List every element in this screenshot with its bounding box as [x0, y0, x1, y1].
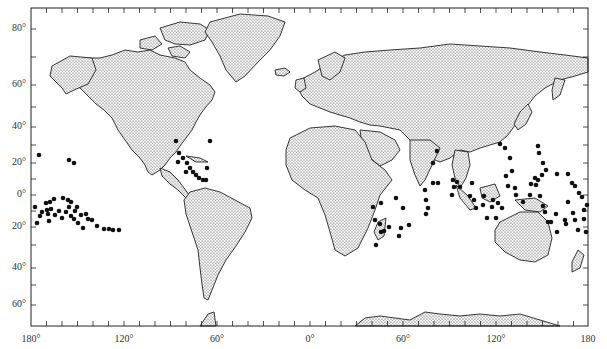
data-point	[474, 206, 479, 211]
data-point	[188, 166, 193, 171]
cuba	[186, 156, 208, 162]
data-point	[566, 200, 571, 205]
data-point	[481, 203, 486, 208]
lon-label: 60°	[210, 333, 224, 344]
data-point	[84, 212, 89, 217]
data-point	[496, 201, 501, 206]
data-point	[401, 206, 406, 211]
lon-label: 120°	[487, 333, 506, 344]
landmasses	[50, 14, 588, 326]
data-point	[79, 213, 84, 218]
data-point	[529, 182, 534, 187]
data-point	[204, 178, 209, 183]
data-point	[468, 194, 473, 199]
data-point	[563, 218, 568, 223]
kamchatka	[552, 78, 565, 100]
data-point	[67, 158, 72, 163]
data-point	[378, 222, 383, 227]
data-point	[73, 209, 78, 214]
data-point	[72, 161, 77, 166]
data-point	[485, 216, 490, 221]
data-point	[537, 151, 542, 156]
data-point	[95, 224, 100, 229]
data-point	[576, 228, 581, 233]
lat-label: 20°	[0, 156, 26, 167]
lon-label: 120°	[115, 333, 134, 344]
data-point	[40, 210, 45, 215]
data-point	[47, 219, 52, 224]
data-point	[490, 205, 495, 210]
data-point	[540, 173, 545, 178]
lat-label: 80°	[0, 22, 26, 33]
india	[410, 140, 440, 186]
data-point	[185, 161, 190, 166]
data-point	[72, 217, 77, 222]
iceland	[275, 68, 290, 76]
data-point	[38, 214, 43, 219]
data-point	[549, 220, 554, 225]
data-point	[52, 197, 57, 202]
data-point	[117, 228, 122, 233]
antarctica-edge	[355, 312, 560, 326]
data-point	[584, 230, 589, 235]
data-point	[544, 168, 549, 173]
data-point	[205, 166, 210, 171]
data-point	[494, 216, 499, 221]
lon-label: 0°	[306, 333, 315, 344]
data-point	[580, 195, 585, 200]
data-point	[111, 228, 116, 233]
data-point	[373, 218, 378, 223]
data-point	[536, 178, 541, 183]
data-point	[536, 144, 541, 149]
data-point	[470, 181, 475, 186]
data-point	[521, 200, 526, 205]
data-point	[577, 191, 582, 196]
data-point	[208, 139, 213, 144]
data-point	[555, 230, 560, 235]
data-point	[513, 186, 518, 191]
data-point	[458, 185, 463, 190]
data-point	[177, 151, 182, 156]
lat-label: 40°	[0, 261, 26, 272]
data-point	[371, 205, 376, 210]
data-point	[543, 210, 548, 215]
data-point	[450, 193, 455, 198]
data-point	[37, 153, 42, 158]
data-point	[181, 156, 186, 161]
data-point	[184, 170, 189, 175]
data-point	[90, 218, 95, 223]
data-point	[582, 208, 587, 213]
data-point	[482, 194, 487, 199]
data-point	[573, 184, 578, 189]
data-point	[46, 212, 51, 217]
se-asia	[452, 150, 470, 188]
data-point	[564, 222, 569, 227]
lat-label: 60°	[0, 298, 26, 309]
data-point	[452, 185, 457, 190]
data-point	[500, 206, 505, 211]
new-zealand	[572, 250, 584, 272]
data-point	[75, 205, 80, 210]
data-point	[174, 139, 179, 144]
data-point	[554, 212, 559, 217]
data-point	[585, 203, 590, 208]
data-point	[394, 196, 399, 201]
lon-label: 180	[581, 333, 596, 344]
data-point	[64, 210, 69, 215]
data-point	[431, 181, 436, 186]
australia	[495, 212, 552, 262]
lon-label: 180°	[22, 333, 41, 344]
data-point	[423, 188, 428, 193]
data-point	[582, 217, 587, 222]
data-point	[49, 207, 54, 212]
data-point	[573, 218, 578, 223]
data-point	[107, 227, 112, 232]
data-point	[81, 226, 86, 231]
data-point	[69, 200, 74, 205]
data-point	[197, 176, 202, 181]
data-point	[61, 196, 66, 201]
borneo	[480, 184, 500, 202]
data-point	[374, 243, 379, 248]
lat-label: 0°	[0, 188, 26, 199]
data-point	[528, 193, 533, 198]
